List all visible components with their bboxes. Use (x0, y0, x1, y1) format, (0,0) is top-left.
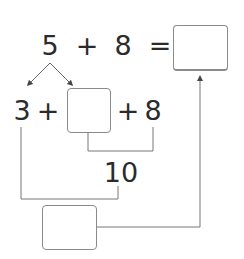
addend-eight-second: 8 (144, 97, 161, 124)
make-ten-label: 10 (104, 159, 138, 186)
part-three: 3 (13, 97, 30, 124)
result-answer-box[interactable] (173, 25, 228, 71)
decomposed-part-box[interactable] (67, 88, 111, 133)
remaining-sum-box[interactable] (42, 205, 97, 250)
addend-five: 5 (41, 32, 58, 59)
split-arrow-right (50, 63, 71, 84)
equals-sign: = (149, 32, 172, 59)
plus-sign: + (76, 32, 99, 59)
split-arrow-left (29, 63, 50, 84)
plus-sign-1: + (37, 97, 60, 124)
addend-eight: 8 (114, 32, 131, 59)
plus-sign-2: + (117, 97, 140, 124)
